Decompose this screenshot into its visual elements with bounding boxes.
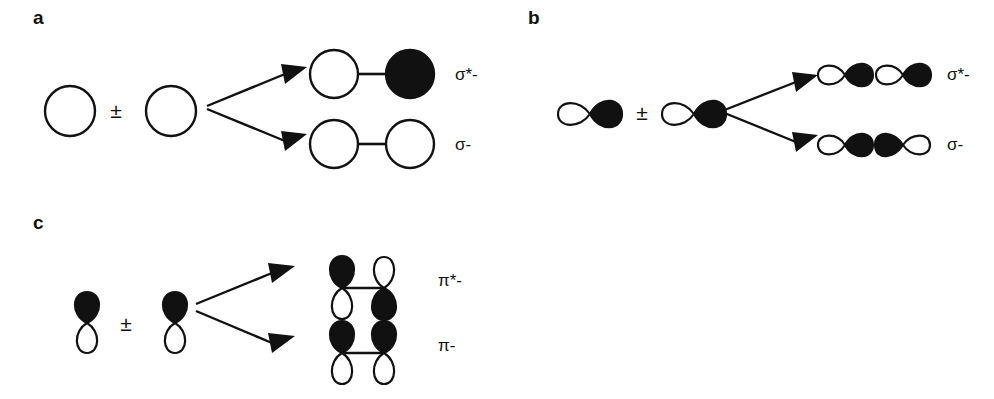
panel-a-arrow-lower	[203, 103, 313, 163]
panel-a-label-antibonding: σ*-	[455, 66, 478, 83]
panel-c-label-antibonding: π*-	[438, 272, 462, 289]
panel-c-product-bonding	[320, 317, 406, 389]
panel-a-operator: ±	[104, 100, 128, 121]
panel-b-letter: b	[528, 8, 540, 27]
panel-b-reactant-1-p-orbital	[554, 94, 626, 134]
panel-a-product-antibonding	[308, 46, 448, 102]
panel-b-label-antibonding: σ*-	[947, 66, 970, 83]
panel-b-arrow-lower	[718, 106, 824, 162]
panel-c-letter: c	[33, 213, 44, 232]
panel-a-letter: a	[33, 8, 44, 27]
panel-c-operator: ±	[114, 313, 138, 334]
panel-c-product-antibonding	[320, 252, 406, 324]
panel-b-operator: ±	[630, 102, 654, 123]
panel-a-label-bonding: σ-	[455, 136, 471, 153]
panel-b-label-bonding: σ-	[947, 136, 963, 153]
panel-c-label-bonding: π-	[438, 337, 455, 354]
panel-a-reactant-2-s-orbital	[143, 83, 199, 139]
panel-a-reactant-1-s-orbital	[42, 83, 98, 139]
panel-b-product-antibonding	[815, 56, 935, 94]
panel-a-product-bonding	[308, 116, 448, 172]
panel-b-product-bonding	[815, 126, 935, 164]
panel-c-reactant-2-p-orbital	[155, 287, 195, 359]
panel-c-arrow-lower	[192, 305, 300, 361]
panel-c-reactant-1-p-orbital	[67, 287, 107, 359]
